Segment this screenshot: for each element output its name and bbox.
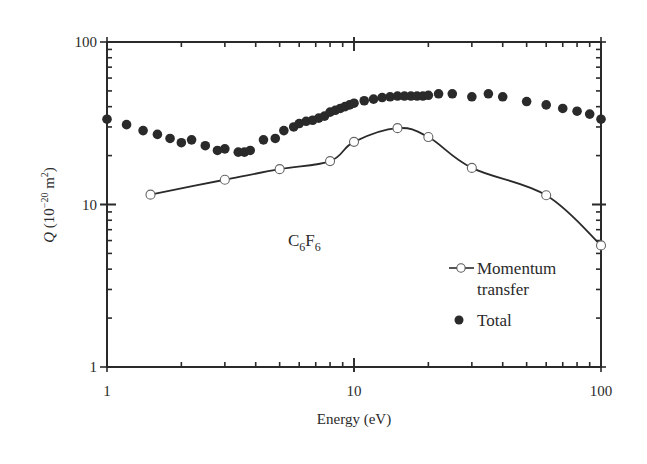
data-point-total — [259, 135, 269, 145]
data-point-total — [585, 109, 595, 119]
legend-momentum-label: Momentum — [477, 259, 556, 278]
legend-momentum-label-2: transfer — [477, 280, 529, 299]
data-point-total — [349, 98, 359, 108]
data-point-momentum-transfer — [220, 175, 229, 184]
data-point-momentum-transfer — [424, 133, 433, 142]
data-point-momentum-transfer — [597, 241, 606, 250]
data-point-total — [596, 114, 606, 124]
y-tick-label: 100 — [75, 34, 98, 50]
data-point-total — [200, 141, 210, 151]
plot-axes — [100, 37, 606, 372]
legend-total-label: Total — [477, 311, 512, 330]
data-point-total — [270, 134, 280, 144]
y-tick-label: 1 — [90, 359, 98, 375]
legend: Momentum transfer Total — [449, 259, 556, 330]
data-point-total — [572, 106, 582, 116]
x-tick-label: 1 — [103, 383, 111, 399]
data-point-total — [484, 89, 494, 99]
data-point-total — [359, 96, 369, 106]
legend-total-marker-icon — [455, 316, 464, 325]
data-point-total — [424, 90, 434, 100]
data-point-momentum-transfer — [146, 190, 155, 199]
chart: 110100110100 C6F6 Momentum transfer Tota… — [0, 0, 647, 464]
y-tick-label: 10 — [82, 197, 97, 213]
data-point-total — [447, 89, 457, 99]
data-point-total — [102, 114, 112, 124]
data-point-total — [522, 97, 532, 107]
data-point-total — [177, 138, 187, 148]
x-tick-label: 10 — [347, 383, 362, 399]
data-point-momentum-transfer — [393, 124, 402, 133]
data-point-momentum-transfer — [467, 163, 476, 172]
data-point-total — [369, 94, 379, 104]
data-point-momentum-transfer — [326, 157, 335, 166]
data-point-total — [245, 146, 255, 156]
data-point-total — [541, 100, 551, 110]
legend-momentum-marker-icon — [457, 264, 465, 272]
data-point-total — [138, 126, 148, 136]
data-point-total — [498, 92, 508, 102]
momentum-transfer-curve — [150, 128, 601, 245]
data-point-total — [434, 89, 444, 99]
series-momentum-transfer — [146, 124, 606, 250]
data-point-total — [165, 134, 175, 144]
x-axis-label: Energy (eV) — [317, 411, 391, 428]
data-point-total — [220, 144, 230, 154]
data-point-total — [122, 120, 132, 130]
tick-labels: 110100110100 — [75, 34, 613, 399]
molecule-annotation: C6F6 — [288, 231, 321, 254]
data-point-total — [558, 104, 568, 114]
x-tick-label: 100 — [590, 383, 613, 399]
plot-frame — [107, 42, 601, 367]
data-point-momentum-transfer — [350, 137, 359, 146]
data-point-total — [467, 92, 477, 102]
y-axis-label: Q (10−20 m2) — [39, 167, 58, 243]
data-point-momentum-transfer — [275, 165, 284, 174]
data-point-total — [279, 126, 289, 136]
data-point-total — [187, 135, 197, 145]
data-point-total — [153, 130, 163, 140]
data-point-momentum-transfer — [542, 191, 551, 200]
